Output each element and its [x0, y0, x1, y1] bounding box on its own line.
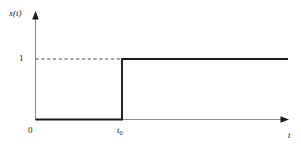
unit-step-curve [36, 59, 289, 120]
y-tick-label-one: 1 [19, 54, 24, 63]
origin-label-zero: 0 [28, 126, 33, 135]
x-axis-label: t [288, 131, 291, 140]
x-tick-label-t0-subscript: 0 [120, 129, 123, 136]
y-axis-arrowhead [32, 11, 39, 20]
y-axis-label: x(t) [9, 9, 22, 18]
x-tick-label-t0: t0 [117, 126, 123, 135]
x-axis-arrowhead [281, 116, 290, 122]
plot-area [0, 0, 301, 149]
unit-step-function-figure: x(t) t 1 0 t0 [0, 0, 301, 149]
